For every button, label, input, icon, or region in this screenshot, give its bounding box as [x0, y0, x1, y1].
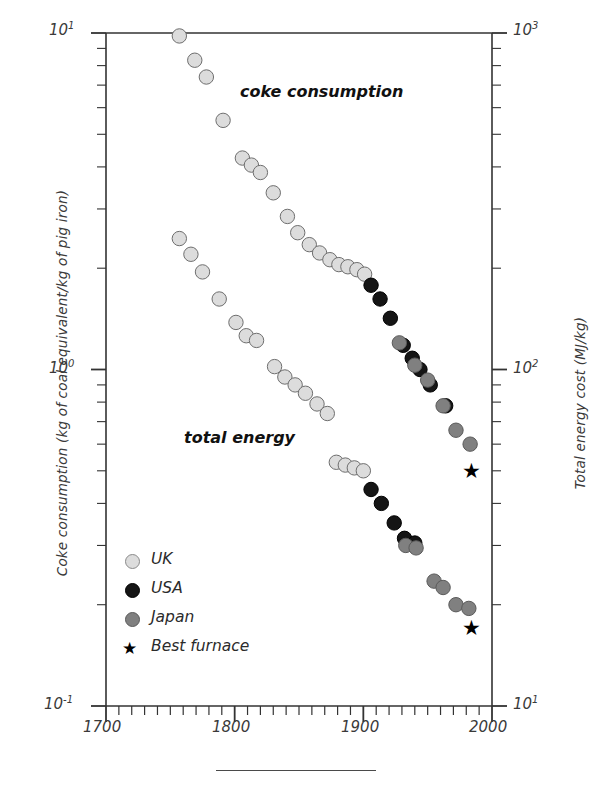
legend-label-uk: UK: [151, 550, 173, 568]
caption-divider: [216, 770, 376, 771]
y-tick-label-left-1em1: 10-1: [44, 694, 73, 713]
legend-label-usa: USA: [151, 579, 183, 597]
legend-swatch-uk: [125, 554, 140, 569]
marker-usa: [364, 482, 378, 496]
marker-uk: [172, 29, 186, 43]
marker-japan: [436, 399, 450, 413]
marker-usa: [374, 496, 388, 510]
x-tick-label-1700: 1700: [83, 718, 121, 736]
marker-usa: [364, 278, 378, 292]
marker-japan: [420, 373, 434, 387]
legend-label-japan: Japan: [151, 608, 194, 626]
marker-uk: [229, 315, 243, 329]
legend-swatch-usa: [125, 583, 140, 598]
marker-japan: [408, 358, 422, 372]
marker-best-furnace: ★: [462, 459, 481, 483]
x-tick-label-1800: 1800: [212, 718, 250, 736]
marker-japan: [392, 336, 406, 350]
series-usa: [364, 278, 453, 550]
y-tick-label-right-1e2: 102: [513, 358, 538, 377]
y-tick-label-right-1e3: 103: [513, 20, 538, 39]
legend-swatch-japan: [125, 612, 140, 627]
marker-uk: [172, 231, 186, 245]
marker-japan: [449, 598, 463, 612]
marker-uk: [188, 53, 202, 67]
marker-uk: [298, 386, 312, 400]
marker-japan: [463, 437, 477, 451]
annotation-coke-consumption: coke consumption: [240, 82, 403, 101]
marker-uk: [212, 292, 226, 306]
marker-uk: [280, 209, 294, 223]
marker-uk: [356, 464, 370, 478]
marker-usa: [373, 292, 387, 306]
marker-uk: [216, 113, 230, 127]
data-points-layer: ★★: [0, 0, 598, 794]
annotation-total-energy: total energy: [184, 428, 295, 447]
y-tick-label-right-1e1: 101: [513, 694, 538, 713]
marker-uk: [266, 186, 280, 200]
marker-uk: [195, 265, 209, 279]
marker-usa: [383, 311, 397, 325]
marker-japan: [462, 601, 476, 615]
y-axis-right-title: Total energy cost (MJ/kg): [572, 203, 588, 603]
legend-label-best-furnace: Best furnace: [151, 637, 249, 655]
marker-uk: [184, 247, 198, 261]
marker-uk: [320, 406, 334, 420]
marker-uk: [253, 165, 267, 179]
marker-best-furnace: ★: [462, 616, 481, 640]
x-tick-label-2000: 2000: [469, 718, 507, 736]
marker-japan: [409, 541, 423, 555]
marker-japan: [449, 423, 463, 437]
marker-uk: [249, 333, 263, 347]
y-axis-left-title: Coke consumption (kg of coal equivalent/…: [54, 173, 70, 593]
marker-uk: [199, 70, 213, 84]
chart-figure: ★★ Coke consumption (kg of coal equivale…: [0, 0, 598, 794]
x-tick-label-1900: 1900: [341, 718, 379, 736]
y-tick-label-left-1e1: 101: [49, 20, 74, 39]
marker-uk: [291, 225, 305, 239]
marker-usa: [387, 516, 401, 530]
y-tick-label-left-1e0: 100: [49, 358, 74, 377]
marker-japan: [436, 580, 450, 594]
legend-swatch-best-furnace: ★: [122, 640, 137, 657]
